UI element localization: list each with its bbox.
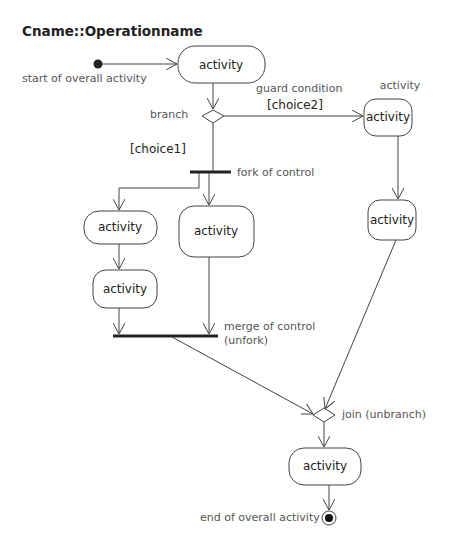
right-activity-2-label: activity <box>370 213 414 227</box>
diagram-title: Cname::Operationname <box>22 23 203 39</box>
merge-label-line1: merge of control <box>224 320 315 333</box>
left-activity-2-label: activity <box>103 282 147 296</box>
right-activity-2[interactable]: activity <box>368 200 416 240</box>
end-node-icon <box>322 511 336 525</box>
right-activity-caption: activity <box>380 79 421 92</box>
choice2-label: [choice2] <box>267 98 323 112</box>
right-activity-1[interactable]: activity <box>364 99 412 136</box>
merge-label-line2: (unfork) <box>224 334 268 347</box>
start-label: start of overall activity <box>22 72 147 85</box>
center-activity-label: activity <box>194 224 238 238</box>
end-label: end of overall activity <box>200 511 320 524</box>
join-diamond-icon <box>313 408 335 422</box>
bottom-activity-label: activity <box>303 459 347 473</box>
left-activity-1-label: activity <box>98 220 142 234</box>
left-activity-1[interactable]: activity <box>84 211 157 244</box>
start-node-icon <box>94 60 103 69</box>
branch-label: branch <box>150 108 188 121</box>
branch-diamond-icon <box>202 110 224 123</box>
activity-top[interactable]: activity <box>178 46 265 83</box>
guard-condition-label: guard condition <box>256 82 342 95</box>
right-activity-1-label: activity <box>366 110 410 124</box>
fork-to-left-edge <box>119 173 199 210</box>
merge-to-join-edge <box>172 337 313 414</box>
bottom-activity[interactable]: activity <box>289 448 361 485</box>
center-activity[interactable]: activity <box>179 206 254 257</box>
choice1-label: [choice1] <box>130 142 186 156</box>
fork-label: fork of control <box>237 166 314 179</box>
left-activity-2[interactable]: activity <box>93 270 157 308</box>
join-label: join (unbranch) <box>341 408 426 421</box>
right-to-join-edge <box>325 240 396 409</box>
activity-top-label: activity <box>199 58 243 72</box>
activity-diagram: Cname::Operationname start of overall ac… <box>0 0 452 554</box>
